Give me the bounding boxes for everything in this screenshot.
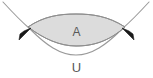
- curve-label: U: [0, 61, 153, 74]
- area-label: A: [0, 26, 153, 38]
- figure-canvas: A U: [0, 0, 153, 78]
